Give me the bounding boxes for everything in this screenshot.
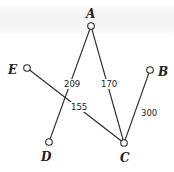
node-label-d: D	[40, 150, 52, 164]
edge-weight-e-c: 155	[71, 102, 87, 112]
node-b	[147, 67, 154, 74]
node-e	[24, 65, 31, 72]
edge-weight-b-c: 300	[141, 108, 157, 118]
node-a	[88, 23, 95, 30]
node-c	[121, 140, 128, 147]
node-label-a: A	[85, 7, 95, 21]
node-label-e: E	[7, 63, 18, 77]
node-d	[46, 139, 53, 146]
edge-weight-a-d: 209	[64, 79, 80, 89]
edge-b-c	[124, 70, 150, 143]
node-label-c: C	[120, 151, 130, 165]
edge-weight-a-c: 170	[101, 79, 117, 89]
graph-diagram: 209 170 155 300 A B C D E	[0, 0, 174, 172]
node-label-b: B	[157, 65, 168, 79]
